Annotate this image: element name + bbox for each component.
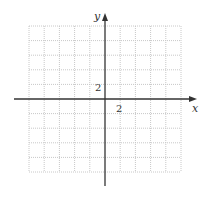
y-axis-label: y (93, 10, 101, 23)
y-axis-arrow-icon (102, 13, 108, 21)
x-tick-label: 2 (116, 103, 122, 114)
y-tick-label: 2 (95, 82, 101, 93)
x-axis-label: x (192, 102, 199, 115)
coordinate-plane: x y 2 2 (0, 0, 207, 197)
